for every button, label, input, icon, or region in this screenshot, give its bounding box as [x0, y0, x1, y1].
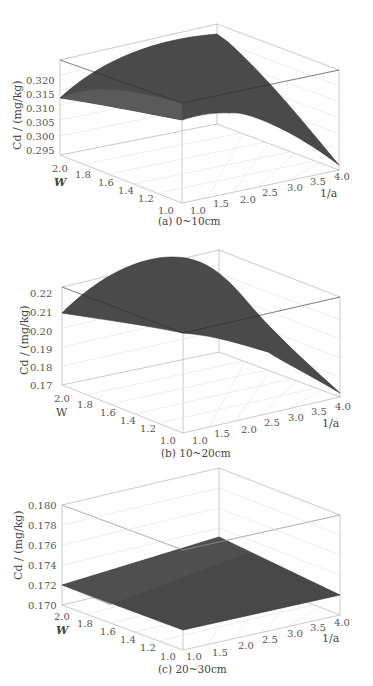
w-tick: 1.6	[100, 407, 116, 418]
w-tick: 1.8	[77, 399, 93, 410]
w-tick: 1.8	[77, 618, 93, 629]
x-tick: 3.0	[288, 412, 304, 423]
x-tick: 1.5	[212, 647, 228, 658]
x-tick: 4.0	[335, 401, 351, 412]
x-axis-label: 1/a	[320, 187, 338, 200]
w-tick: 1.2	[140, 642, 156, 653]
z-tick: 0.305	[26, 117, 55, 128]
w-tick: 1.2	[140, 423, 156, 434]
z-tick: 0.20	[30, 326, 52, 337]
x-tick: 2.0	[238, 640, 254, 651]
w-tick: 2.0	[54, 393, 70, 404]
w-tick: 1.4	[118, 185, 134, 196]
x-tick: 3.0	[287, 182, 303, 193]
x-tick: 2.0	[240, 194, 256, 205]
w-tick: 1.6	[100, 626, 116, 637]
w-tick: 1.4	[120, 634, 136, 645]
x-tick: 3.5	[310, 176, 326, 187]
x-axis-label: 1/a	[322, 632, 340, 645]
z-tick: 0.18	[30, 362, 52, 373]
z-tick: 0.295	[26, 145, 55, 156]
z-tick: 0.21	[30, 307, 52, 318]
z-tick: 0.310	[26, 103, 55, 114]
z-tick: 0.315	[26, 89, 55, 100]
z-tick: 0.180	[28, 500, 57, 511]
x-tick: 3.5	[311, 406, 327, 417]
surface-plot-b: 0.22 0.21 0.20 0.19 0.18 0.17 2.0 1.8 1.…	[0, 225, 373, 460]
z-axis-label: Cd / (mg/kg)	[11, 80, 24, 150]
w-axis-label: W	[56, 406, 68, 419]
z-tick: 0.22	[30, 288, 52, 299]
panel-c: 0.180 0.178 0.176 0.174 0.172 0.170 2.0 …	[0, 460, 373, 686]
x-tick: 1.5	[214, 428, 230, 439]
z-tick: 0.174	[28, 560, 57, 571]
z-tick: 0.172	[28, 580, 57, 591]
w-tick: 2.0	[52, 163, 68, 174]
x-tick: 1.5	[213, 198, 229, 209]
z-tick: 0.19	[30, 344, 52, 355]
panel-a: 0.320 0.315 0.310 0.305 0.300 0.295 2.0 …	[0, 0, 373, 230]
caption-b: (b) 10~20cm	[161, 447, 231, 459]
panel-b: 0.22 0.21 0.20 0.19 0.18 0.17 2.0 1.8 1.…	[0, 225, 373, 460]
x-tick: 2.5	[264, 417, 280, 428]
w-tick: 1.8	[75, 169, 91, 180]
x-tick: 1.0	[192, 435, 208, 446]
surface-plot-a: 0.320 0.315 0.310 0.305 0.300 0.295 2.0 …	[0, 0, 373, 230]
z-axis-label: Cd / (mg/kg)	[12, 510, 25, 580]
x-tick: 4.0	[334, 171, 350, 182]
caption-c: (c) 20~30cm	[158, 663, 227, 675]
z-tick: 0.178	[28, 520, 57, 531]
surface-plot-c: 0.180 0.178 0.176 0.174 0.172 0.170 2.0 …	[0, 460, 373, 686]
w-tick: 1.2	[138, 193, 154, 204]
x-axis-label: 1/a	[322, 417, 340, 430]
z-axis-label: Cd / (mg/kg)	[18, 305, 31, 375]
z-tick: 0.170	[28, 600, 57, 611]
w-tick: 1.4	[120, 415, 136, 426]
z-tick: 0.320	[26, 75, 55, 86]
w-tick: 2.0	[54, 611, 70, 622]
x-tick: 2.5	[262, 634, 278, 645]
z-tick: 0.300	[26, 131, 55, 142]
x-tick: 2.5	[262, 187, 278, 198]
x-tick: 2.0	[241, 424, 257, 435]
w-tick: 1.0	[160, 651, 176, 662]
w-tick: 1.6	[98, 177, 114, 188]
w-tick: 1.0	[160, 435, 176, 446]
x-tick: 1.0	[186, 651, 202, 662]
z-tick: 0.17	[30, 380, 52, 391]
w-axis-label: W	[54, 176, 68, 189]
x-tick: 3.0	[287, 628, 303, 639]
x-tick: 4.0	[334, 617, 350, 628]
z-tick: 0.176	[28, 540, 57, 551]
w-axis-label: W	[56, 624, 70, 637]
